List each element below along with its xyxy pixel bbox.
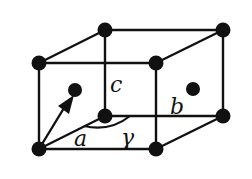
atom-front-top-left — [32, 56, 47, 71]
label-a: a — [74, 126, 87, 151]
label-b: b — [170, 94, 184, 119]
label-c: c — [110, 72, 122, 97]
atom-front-bottom-right — [149, 142, 164, 157]
atom-back-bottom-left — [98, 109, 113, 124]
atom-front-top-right — [149, 56, 164, 71]
arrow-head-icon — [58, 95, 74, 114]
atom-back-bottom-right — [216, 109, 231, 124]
edge-top-left-depth — [39, 30, 105, 63]
atom-front-bottom-left — [32, 142, 47, 157]
unit-cell-diagram: c b a γ — [0, 0, 252, 179]
atom-back-top-right — [216, 23, 231, 38]
label-gamma: γ — [121, 125, 135, 150]
edge-bottom-right-depth — [156, 116, 223, 149]
edge-top-right-depth — [156, 30, 223, 63]
atom-back-top-left — [98, 23, 113, 38]
atom-face-center-left — [68, 83, 82, 97]
atom-face-center-right — [186, 82, 200, 96]
